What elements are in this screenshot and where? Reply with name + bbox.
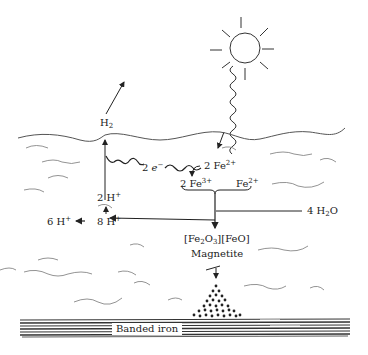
sediment-particles-icon xyxy=(193,285,242,318)
label-fe2-right: Fe2+ xyxy=(236,178,259,189)
arrow-icon xyxy=(106,82,124,114)
label-fe2-top: 2 Fe2+ xyxy=(204,160,236,171)
arrow-icon xyxy=(110,218,215,220)
banded-iron-layers-icon xyxy=(20,319,350,337)
label-electrons: 2 e− xyxy=(142,162,163,173)
sun-icon xyxy=(210,17,274,80)
label-magnetite-formula: [Fe2O3][FeO] xyxy=(184,234,250,246)
electron-wave-icon xyxy=(165,165,201,171)
label-fe3: 2 Fe3+ xyxy=(180,178,212,189)
water-surface xyxy=(18,128,345,141)
label-h2: H2 xyxy=(100,118,113,130)
label-water: 4 H2O xyxy=(307,206,338,218)
label-2h-plus: 2 H+ xyxy=(97,192,121,203)
label-8h-plus: 8 H+ xyxy=(97,216,121,227)
label-6h-plus: 6 H+ xyxy=(47,216,71,227)
electron-wave-icon xyxy=(106,156,144,165)
label-banded-iron: Banded iron xyxy=(112,323,182,335)
banded-iron-formation-diagram: H2 2 e− 2 Fe2+ 2 Fe3+ Fe2+ 2 H+ 8 H+ 6 H… xyxy=(0,0,368,355)
label-magnetite: Magnetite xyxy=(191,249,243,259)
photon-wave-icon xyxy=(230,66,236,154)
arrow-icon xyxy=(218,132,224,148)
